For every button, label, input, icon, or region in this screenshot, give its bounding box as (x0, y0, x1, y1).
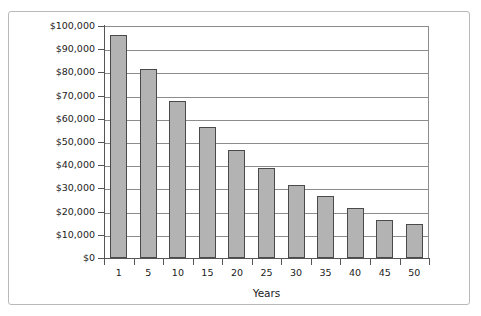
bar (110, 35, 127, 258)
value-axis-tick-label: $90,000 (11, 44, 95, 54)
bar (199, 127, 216, 258)
category-axis-tick-label: 10 (172, 268, 184, 278)
category-axis-tick (311, 259, 312, 265)
category-axis-tick-label: 20 (231, 268, 243, 278)
x-axis-title: Years (104, 288, 429, 299)
category-axis-tick (134, 259, 135, 265)
category-axis-tick-label: 15 (201, 268, 213, 278)
value-axis-tick (98, 258, 105, 259)
category-axis-tick (400, 259, 401, 265)
value-axis-tick-label: $30,000 (11, 183, 95, 193)
bar-chart-figure: $0$10,000$20,000$30,000$40,000$50,000$60… (9, 12, 471, 306)
category-axis-tick-label: 1 (116, 268, 122, 278)
chart-outer-frame: $0$10,000$20,000$30,000$40,000$50,000$60… (8, 11, 470, 305)
bar (347, 208, 364, 258)
value-axis-tick-label: $70,000 (11, 91, 95, 101)
bar (228, 150, 245, 258)
bar (406, 224, 423, 258)
category-axis-tick (222, 259, 223, 265)
category-axis-tick-label: 45 (379, 268, 391, 278)
value-axis-labels: $0$10,000$20,000$30,000$40,000$50,000$60… (9, 12, 95, 306)
value-axis-tick (98, 142, 105, 143)
category-axis-tick-label: 30 (290, 268, 302, 278)
value-axis-tick (98, 96, 105, 97)
category-axis-tick (340, 259, 341, 265)
bars-group (104, 26, 429, 258)
value-axis-tick (98, 188, 105, 189)
bar (140, 69, 157, 258)
value-axis-tick-label: $40,000 (11, 160, 95, 170)
value-axis-tick (98, 119, 105, 120)
category-axis-tick-label: 40 (349, 268, 361, 278)
category-axis-spine (103, 258, 430, 259)
category-axis-tick (163, 259, 164, 265)
value-axis-tick-label: $100,000 (11, 21, 95, 31)
category-axis-tick (281, 259, 282, 265)
category-axis-tick (104, 259, 105, 265)
value-axis-tick-label: $50,000 (11, 137, 95, 147)
category-axis-tick (252, 259, 253, 265)
value-axis-tick-label: $20,000 (11, 207, 95, 217)
bar (317, 196, 334, 258)
value-axis-tick-label: $80,000 (11, 67, 95, 77)
value-axis-tick-label: $0 (11, 253, 95, 263)
value-axis-tick (98, 212, 105, 213)
bar (376, 220, 393, 258)
category-axis-tick-label: 50 (408, 268, 420, 278)
value-axis-tick-label: $10,000 (11, 230, 95, 240)
value-axis-tick (98, 235, 105, 236)
category-axis-tick (193, 259, 194, 265)
value-axis-tick (98, 26, 105, 27)
value-axis-tick-label: $60,000 (11, 114, 95, 124)
bar (258, 168, 275, 258)
value-axis-tick (98, 165, 105, 166)
category-axis-tick-label: 25 (260, 268, 272, 278)
value-axis-tick (98, 49, 105, 50)
category-axis-tick (370, 259, 371, 265)
category-axis-tick-label: 5 (145, 268, 151, 278)
bar (169, 101, 186, 258)
bar (288, 185, 305, 258)
category-axis-tick-label: 35 (320, 268, 332, 278)
value-axis-tick (98, 72, 105, 73)
category-axis-tick (429, 259, 430, 265)
